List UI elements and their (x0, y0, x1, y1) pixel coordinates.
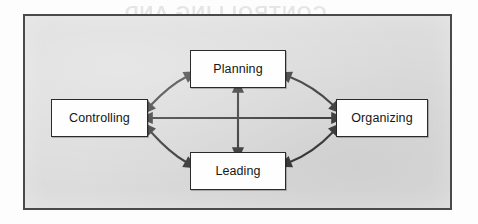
node-planning[interactable]: Planning (190, 50, 286, 88)
node-controlling[interactable]: Controlling (51, 99, 148, 137)
arrow-controlling-leading (151, 132, 186, 162)
node-controlling-label: Controlling (69, 111, 130, 125)
node-organizing[interactable]: Organizing (336, 99, 428, 137)
arrow-controlling-planning (151, 77, 186, 105)
arrow-planning-organizing (290, 77, 333, 105)
node-organizing-label: Organizing (351, 111, 412, 125)
node-leading[interactable]: Leading (190, 152, 286, 190)
figure-frame: Planning Organizing Leading Controlling (23, 14, 452, 210)
arrow-leading-organizing (290, 132, 333, 162)
scanned-page: CONTROLLING AND MAN (0, 0, 478, 224)
node-planning-label: Planning (213, 62, 262, 76)
node-leading-label: Leading (215, 164, 260, 178)
